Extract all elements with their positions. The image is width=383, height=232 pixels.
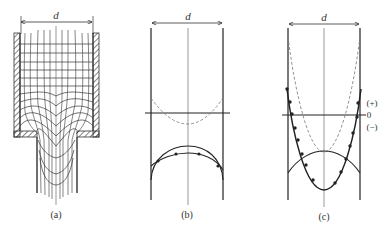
die-walls bbox=[14, 33, 99, 137]
solid-arc-b bbox=[151, 146, 223, 180]
label-zero: 0 bbox=[367, 110, 372, 120]
dimension-label: d bbox=[53, 9, 59, 21]
dimension-label: d bbox=[185, 10, 191, 22]
caption-a: (a) bbox=[50, 209, 61, 221]
caption-b: (b) bbox=[181, 209, 193, 221]
panel-b: d (b) bbox=[145, 10, 230, 221]
panel-c: d (+) 0 (−) (c) bbox=[282, 11, 378, 223]
dimension-d-c: d bbox=[289, 11, 359, 24]
dashed-curve-b bbox=[151, 98, 223, 124]
label-plus: (+) bbox=[366, 98, 377, 108]
dimension-d-a: d bbox=[21, 9, 93, 34]
dimension-d-b: d bbox=[152, 10, 222, 23]
panel-a: d bbox=[14, 9, 99, 221]
figure-canvas: d bbox=[0, 0, 383, 232]
label-minus: (−) bbox=[366, 122, 377, 132]
dimension-label: d bbox=[321, 11, 327, 23]
caption-c: (c) bbox=[318, 211, 329, 223]
flow-grid-horizontal bbox=[20, 44, 93, 185]
